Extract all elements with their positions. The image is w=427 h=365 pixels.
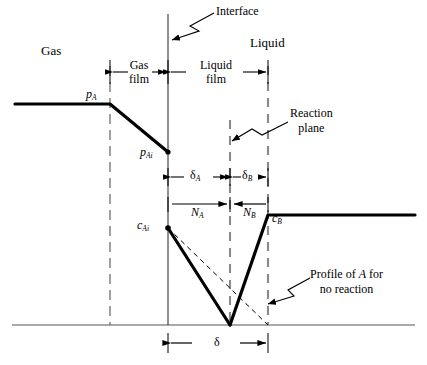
profile-ca-liquid: [168, 228, 230, 325]
symbol-cai-sub: Ai: [142, 224, 149, 233]
profile-note-line2: no reaction: [310, 283, 383, 295]
symbol-na: NA: [191, 206, 204, 220]
symbol-delta: δ: [214, 336, 220, 348]
diagram-canvas: [0, 0, 427, 365]
profile-note-annotation: Profile of A for no reaction: [310, 268, 383, 295]
profile-note-leader: [268, 278, 310, 304]
liquid-phase-label: Liquid: [250, 36, 285, 49]
symbol-cb-sub: B: [277, 217, 282, 226]
interface-annotation: Interface: [216, 5, 259, 17]
symbol-na-sub: A: [199, 211, 204, 220]
reaction-plane-line2: plane: [290, 122, 333, 134]
symbol-pai-sub: Ai: [146, 151, 153, 160]
symbol-delta-b-sub: B: [248, 174, 253, 183]
symbol-nb-sub: B: [251, 211, 256, 220]
symbol-delta-a-sub: A: [196, 174, 201, 183]
gas-phase-label: Gas: [41, 44, 61, 57]
symbol-pa: pA: [86, 88, 97, 102]
liquid-film-label-line2: film: [190, 73, 242, 85]
two-film-diagram: Gas Liquid Interface Gas film Liquid fil…: [0, 0, 427, 365]
symbol-delta-b: δB: [242, 169, 252, 183]
gas-film-label-line2: film: [117, 73, 161, 85]
liquid-film-label-line1: Liquid: [190, 59, 242, 71]
symbol-pa-sub: A: [92, 93, 97, 102]
gas-film-label: Gas film: [117, 59, 161, 85]
reaction-plane-leader: [232, 122, 288, 141]
profile-note-line1: Profile of A for: [310, 268, 383, 280]
symbol-pai: pAi: [140, 146, 153, 160]
profile-note-text-b: for: [369, 267, 383, 281]
symbol-cb: cB: [272, 212, 282, 226]
symbol-na-base: N: [191, 205, 199, 219]
symbol-delta-a: δA: [190, 169, 200, 183]
gas-film-label-line1: Gas: [117, 59, 161, 71]
symbol-cai: cAi: [137, 219, 149, 233]
reaction-plane-line1: Reaction: [290, 107, 333, 119]
profile-note-species: A: [359, 267, 366, 281]
point-pai: [165, 149, 170, 154]
symbol-nb-base: N: [243, 205, 251, 219]
interface-leader: [172, 13, 214, 40]
liquid-film-label: Liquid film: [190, 59, 242, 85]
profile-note-text-a: Profile of: [310, 267, 356, 281]
profile-a-no-reaction-dashed: [168, 228, 268, 325]
symbol-nb: NB: [243, 206, 256, 220]
reaction-plane-annotation: Reaction plane: [290, 107, 333, 134]
